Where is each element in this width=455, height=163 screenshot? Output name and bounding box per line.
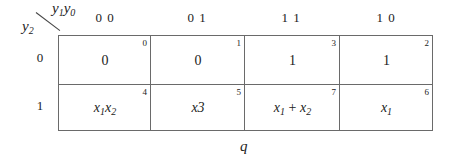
cell-index: 7 (332, 87, 337, 97)
cell-index: 2 (425, 38, 430, 48)
cell-index: 3 (332, 38, 337, 48)
kmap-cell-3: 3 1 (245, 36, 340, 85)
cell-value: x1x2 (59, 100, 151, 117)
kmap-cell-0: 0 0 (59, 36, 151, 85)
term-sub: 2 (111, 106, 116, 117)
cell-value: x3 (151, 100, 245, 116)
cell-index: 0 (143, 38, 148, 48)
cell-index: 4 (143, 87, 148, 97)
column-header-10: 1 0 (339, 10, 433, 26)
cell-value: 1 (340, 53, 433, 69)
var-y2: y (22, 18, 29, 34)
term-sub: 1 (387, 106, 392, 117)
cell-value: 1 (245, 53, 340, 69)
row-variable-label: y2 (22, 18, 34, 36)
cell-index: 5 (237, 87, 242, 97)
kmap-cell-1: 1 0 (151, 36, 245, 85)
column-header-11: 1 1 (244, 10, 338, 26)
cell-index: 1 (237, 38, 242, 48)
kmap-cell-5: 5 x3 (151, 85, 245, 131)
cell-value: x1 + x2 (245, 100, 340, 117)
kmap-cell-7: 7 x1 + x2 (245, 85, 340, 131)
row-header-0: 0 (30, 50, 50, 66)
column-header-00: 0 0 (58, 10, 152, 26)
cell-index: 6 (425, 87, 430, 97)
operator-plus: + (285, 100, 300, 115)
row-header-1: 1 (30, 98, 50, 114)
kmap-cell-2: 2 1 (340, 36, 433, 85)
var-y2-sub: 2 (29, 25, 34, 36)
term-sub: 2 (306, 106, 311, 117)
output-label: q (240, 138, 248, 155)
cell-value: 0 (151, 53, 245, 69)
column-header-01: 0 1 (150, 10, 244, 26)
cell-value: x1 (340, 100, 433, 117)
karnaugh-map: 0 0 1 0 3 1 2 1 4 x1x2 5 x3 7 x1 + x2 6 … (58, 35, 433, 131)
kmap-cell-6: 6 x1 (340, 85, 433, 131)
kmap-cell-4: 4 x1x2 (59, 85, 151, 131)
cell-value: 0 (59, 53, 151, 69)
